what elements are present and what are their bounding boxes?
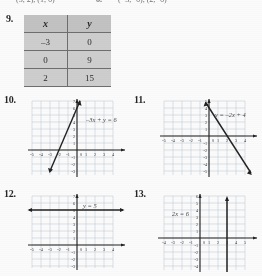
top-fragment-right: ( -3, -6), (2, -6) <box>118 0 167 4</box>
x-axis-arrow <box>253 134 257 137</box>
line-arrow-left-12 <box>28 208 33 212</box>
svg-text:-2: -2 <box>72 257 76 262</box>
svg-text:0: 0 <box>80 152 82 157</box>
cell-y: 9 <box>68 51 112 69</box>
y-tick-labels: 7 6 5 4 3 2 1 -1 -2 -3 <box>72 194 76 269</box>
svg-text:4: 4 <box>235 240 238 245</box>
svg-text:-2: -2 <box>189 138 193 143</box>
svg-text:3: 3 <box>73 127 75 132</box>
svg-text:-5: -5 <box>30 247 34 252</box>
line-arrow-top-13 <box>225 196 229 201</box>
x-axis-arrow <box>121 243 125 246</box>
xy-table-problem-9: x y –3 0 0 9 2 15 <box>24 15 110 84</box>
svg-text:1: 1 <box>208 240 210 245</box>
svg-text:-3: -3 <box>204 155 208 160</box>
coordinate-plane-13: -4 -3 -2 -1 0 1 2 3 4 5 6 5 4 3 2 1 -1 -… <box>156 192 262 274</box>
graph-problem-13: -4 -3 -2 -1 0 1 2 3 4 5 6 5 4 3 2 1 -1 -… <box>156 192 262 274</box>
svg-text:1: 1 <box>196 229 198 234</box>
svg-text:7: 7 <box>73 99 75 104</box>
svg-text:2: 2 <box>73 229 75 234</box>
svg-text:6: 6 <box>196 194 198 199</box>
coordinate-plane-10: -5 -4 -3 -2 -1 0 1 2 3 4 7 6 5 4 3 2 1 -… <box>26 97 130 179</box>
graph-problem-10: -5 -4 -3 -2 -1 0 1 2 3 4 7 6 5 4 3 2 1 -… <box>26 97 130 179</box>
svg-text:7: 7 <box>73 194 75 199</box>
svg-text:2: 2 <box>217 240 219 245</box>
svg-text:0: 0 <box>80 247 82 252</box>
svg-text:-3: -3 <box>48 152 52 157</box>
svg-text:4: 4 <box>112 247 115 252</box>
svg-text:-5: -5 <box>30 152 34 157</box>
equation-label-13: 2x = 6 <box>172 210 189 217</box>
svg-text:0: 0 <box>203 240 205 245</box>
top-fragment-left: (3, 2), (1, 6) <box>16 0 55 4</box>
svg-text:1: 1 <box>85 152 87 157</box>
svg-text:1: 1 <box>217 138 219 143</box>
axes <box>28 194 125 270</box>
table-header-row: x y <box>24 15 111 33</box>
x-tick-labels: -4 -3 -2 -1 0 1 2 3 4 5 <box>162 240 246 245</box>
cut-off-header-line: (3, 2), (1, 6) 8. ( -3, -6), (2, -6) <box>0 0 262 9</box>
cell-x: –3 <box>24 33 68 51</box>
svg-text:2: 2 <box>73 134 75 139</box>
svg-text:5: 5 <box>196 201 198 206</box>
table-row: 2 15 <box>24 69 111 87</box>
svg-text:5: 5 <box>244 240 246 245</box>
svg-text:-3: -3 <box>72 169 76 174</box>
x-axis-arrow <box>121 148 125 151</box>
equation-label-12: y = 5 <box>83 202 97 209</box>
problem-number-12: 12. <box>4 188 16 199</box>
svg-text:4: 4 <box>73 215 76 220</box>
svg-text:3: 3 <box>103 152 105 157</box>
svg-text:4: 4 <box>112 152 115 157</box>
table-row: 0 9 <box>24 51 111 69</box>
svg-text:6: 6 <box>73 106 75 111</box>
svg-text:-1: -1 <box>198 138 202 143</box>
svg-text:3: 3 <box>235 138 237 143</box>
svg-text:-1: -1 <box>72 250 76 255</box>
cell-x: 0 <box>24 51 68 69</box>
y-tick-labels: 7 6 5 4 3 2 1 -1 -2 -3 <box>72 99 76 174</box>
svg-text:2: 2 <box>94 247 96 252</box>
svg-text:2: 2 <box>196 222 198 227</box>
svg-text:-1: -1 <box>66 152 70 157</box>
svg-text:-5: -5 <box>204 169 208 174</box>
svg-text:2: 2 <box>94 152 96 157</box>
svg-text:1: 1 <box>205 127 207 132</box>
svg-text:-3: -3 <box>171 240 175 245</box>
svg-text:1: 1 <box>85 247 87 252</box>
svg-text:4: 4 <box>196 208 199 213</box>
svg-text:3: 3 <box>196 215 198 220</box>
svg-text:-3: -3 <box>48 247 52 252</box>
svg-text:3: 3 <box>103 247 105 252</box>
svg-text:4: 4 <box>244 138 247 143</box>
table-header-x: x <box>24 15 68 33</box>
problem-number-11: 11. <box>134 94 145 105</box>
svg-text:-4: -4 <box>171 138 175 143</box>
svg-text:3: 3 <box>73 222 75 227</box>
table: x y –3 0 0 9 2 15 <box>24 15 111 87</box>
svg-text:-3: -3 <box>195 257 199 262</box>
top-fragment-number: 8. <box>96 0 102 4</box>
cell-y: 0 <box>68 33 112 51</box>
graph-problem-11: -5 -4 -3 -2 -1 0 1 2 3 4 5 4 3 2 1 -1 -2… <box>158 97 262 179</box>
cell-x: 2 <box>24 69 68 87</box>
svg-text:0: 0 <box>212 138 214 143</box>
svg-text:-1: -1 <box>204 141 208 146</box>
svg-text:-4: -4 <box>39 247 43 252</box>
svg-text:-1: -1 <box>66 247 70 252</box>
coordinate-plane-11: -5 -4 -3 -2 -1 0 1 2 3 4 5 4 3 2 1 -1 -2… <box>158 97 262 179</box>
svg-text:1: 1 <box>73 236 75 241</box>
graph-problem-12: -5 -4 -3 -2 -1 0 1 2 3 4 7 6 5 4 3 2 1 -… <box>26 192 130 272</box>
svg-text:1: 1 <box>73 141 75 146</box>
svg-text:6: 6 <box>73 201 75 206</box>
svg-text:4: 4 <box>73 120 76 125</box>
svg-text:-4: -4 <box>204 162 208 167</box>
equation-label-11: y = –2x + 4 <box>215 111 246 118</box>
problem-number-9: 9. <box>6 13 13 24</box>
line-arrow-right-12 <box>120 208 125 212</box>
svg-text:-1: -1 <box>189 240 193 245</box>
equation-label-10: –3x + y = 6 <box>86 116 117 123</box>
svg-text:-5: -5 <box>162 138 166 143</box>
svg-text:-4: -4 <box>39 152 43 157</box>
svg-text:-2: -2 <box>204 148 208 153</box>
